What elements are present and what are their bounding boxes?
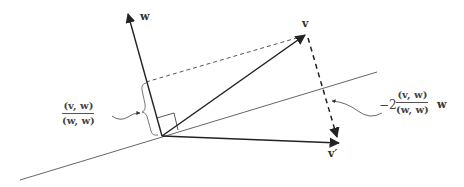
vector-v-prime-label: v′ — [328, 148, 337, 159]
reflection-denominator: (w, w) — [396, 103, 429, 116]
vector-v-prime-arrow — [162, 136, 339, 143]
reflection-numerator: (v, w) — [396, 89, 428, 103]
projection-dashed-line — [146, 37, 300, 82]
right-label-pointer — [332, 101, 382, 116]
left-label-pointer — [112, 113, 140, 119]
reflection-suffix-w: w — [437, 99, 446, 110]
mirror-hyperplane-line — [20, 72, 377, 180]
vector-v-label: v — [302, 18, 308, 29]
projection-length-label: (v, w) (w, w) — [62, 100, 95, 126]
vector-w-label: w — [140, 11, 149, 22]
projection-denominator: (w, w) — [62, 114, 95, 127]
projection-numerator: (v, w) — [62, 100, 94, 114]
vector-v-arrow — [162, 35, 305, 136]
reflection-diagram — [0, 0, 464, 187]
reflection-fraction: (v, w) (w, w) — [396, 89, 429, 115]
vector-w-arrow — [128, 14, 162, 136]
reflection-coefficient: −2 — [379, 99, 397, 111]
reflection-offset-arrow — [308, 38, 337, 137]
